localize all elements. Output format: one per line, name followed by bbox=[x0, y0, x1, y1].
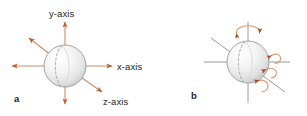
panel-a-sphere bbox=[44, 45, 86, 87]
rotation-arrow-diagonal-axis bbox=[259, 80, 268, 92]
panel-b: b bbox=[191, 22, 290, 103]
panel-a: y-axis x-axis z-axis a bbox=[12, 8, 143, 107]
figure-svg: y-axis x-axis z-axis a bbox=[0, 0, 307, 116]
figure-container: y-axis x-axis z-axis a bbox=[0, 0, 307, 116]
sphere-body bbox=[44, 45, 86, 87]
label-z-axis: z-axis bbox=[103, 96, 129, 107]
label-x-axis: x-axis bbox=[117, 61, 143, 72]
sphere-body bbox=[227, 41, 269, 83]
label-y-axis: y-axis bbox=[49, 8, 75, 19]
panel-label-a: a bbox=[14, 93, 20, 104]
panel-b-sphere bbox=[227, 41, 269, 83]
panel-label-b: b bbox=[191, 90, 197, 101]
